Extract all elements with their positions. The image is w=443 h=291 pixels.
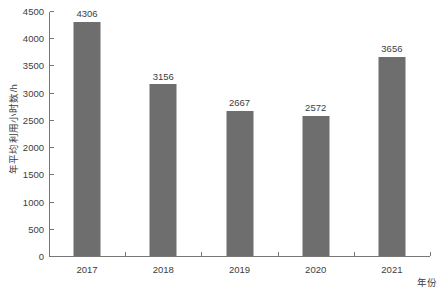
x-tick-mark [49, 252, 50, 256]
bar: 3156 [150, 84, 177, 256]
x-category-label: 2018 [153, 265, 174, 275]
y-tick-mark [50, 65, 54, 66]
x-category-label: 2021 [381, 265, 402, 275]
bar-value-label: 4306 [77, 9, 98, 19]
y-tick-label: 2000 [23, 143, 44, 153]
x-tick-mark [125, 252, 126, 256]
x-axis-line [49, 256, 430, 257]
x-category-label: 2017 [77, 265, 98, 275]
bar-value-label: 3156 [153, 72, 174, 82]
y-tick-mark [50, 202, 54, 203]
x-tick-mark [278, 252, 279, 256]
y-tick-label: 500 [28, 225, 44, 235]
bar-chart-figure: 年平均利用小时数/h 05001000150020002500300035004… [0, 0, 443, 291]
x-axis-title: 年份 [417, 275, 437, 289]
y-tick-mark [50, 11, 54, 12]
y-tick-mark [50, 120, 54, 121]
y-tick-mark [50, 147, 54, 148]
y-tick-mark [50, 256, 54, 257]
bar: 4306 [74, 22, 101, 256]
bar-value-label: 2572 [305, 103, 326, 113]
y-axis-title: 年平均利用小时数/h [6, 64, 20, 194]
x-tick-mark [354, 252, 355, 256]
y-axis-line [49, 12, 50, 257]
y-tick-label: 2500 [23, 116, 44, 126]
bar: 3656 [378, 57, 405, 256]
y-tick-mark [50, 93, 54, 94]
y-tick-label: 1500 [23, 171, 44, 181]
y-tick-label: 4000 [23, 34, 44, 44]
y-tick-label: 3500 [23, 62, 44, 72]
bar: 2667 [226, 111, 253, 256]
x-tick-mark [201, 252, 202, 256]
y-tick-label: 3000 [23, 89, 44, 99]
y-tick-label: 4500 [23, 7, 44, 17]
bar-value-label: 2667 [229, 98, 250, 108]
y-tick-mark [50, 174, 54, 175]
plot-area: 050010001500200025003000350040004500 430… [49, 12, 430, 257]
y-tick-mark [50, 229, 54, 230]
x-tick-mark [430, 252, 431, 256]
y-tick-mark [50, 38, 54, 39]
y-tick-label: 0 [39, 252, 44, 262]
y-tick-label: 1000 [23, 198, 44, 208]
x-category-label: 2020 [305, 265, 326, 275]
bar-value-label: 3656 [381, 44, 402, 54]
x-category-label: 2019 [229, 265, 250, 275]
bar: 2572 [302, 116, 329, 256]
